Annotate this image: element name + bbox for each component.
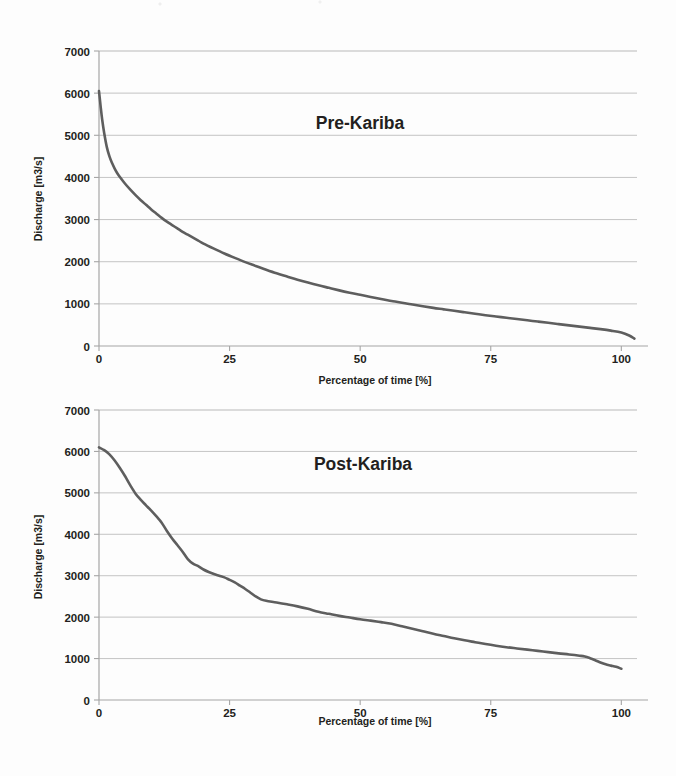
- x-tick-label: 50: [354, 353, 367, 365]
- y-tick-label: 3000: [64, 214, 90, 226]
- x-axis-title-post-kariba: Percentage of time [%]: [318, 715, 431, 727]
- y-tick-label: 1000: [64, 298, 90, 310]
- x-tick-label: 25: [223, 707, 236, 719]
- chart-panel-pre-kariba: 01000200030004000500060007000 0255075100…: [0, 6, 676, 391]
- y-tick-label: 1000: [64, 653, 90, 665]
- y-tick-label: 4000: [64, 172, 90, 184]
- y-tick-label: 2000: [64, 612, 90, 624]
- panel-title-post-kariba: Post-Kariba: [314, 454, 412, 474]
- y-tick-label: 6000: [64, 88, 90, 100]
- y-axis-title-post-kariba: Discharge [m3/s]: [32, 515, 44, 600]
- x-tick-label: 0: [96, 707, 102, 719]
- y-axis-title-pre-kariba: Discharge [m3/s]: [32, 157, 44, 242]
- y-tick-marks-post-kariba: [94, 410, 99, 700]
- y-tick-label: 7000: [64, 46, 90, 58]
- y-tick-label: 6000: [64, 446, 90, 458]
- y-tick-labels-post-kariba: 01000200030004000500060007000: [64, 405, 90, 707]
- x-tick-marks-post-kariba: [99, 700, 621, 705]
- figure-page: 01000200030004000500060007000 0255075100…: [0, 0, 676, 776]
- gridlines-pre-kariba: [99, 51, 637, 304]
- y-tick-label: 4000: [64, 529, 90, 541]
- y-tick-label: 0: [84, 695, 90, 707]
- post-kariba-plot: 01000200030004000500060007000 0255075100…: [0, 392, 676, 776]
- x-tick-label: 75: [484, 353, 497, 365]
- data-series-post-kariba: [99, 447, 621, 668]
- chart-panel-post-kariba: 01000200030004000500060007000 0255075100…: [0, 392, 676, 776]
- x-tick-label: 100: [612, 707, 631, 719]
- panel-title-pre-kariba: Pre-Kariba: [316, 113, 405, 133]
- x-tick-marks-pre-kariba: [99, 346, 621, 351]
- x-axis-title-pre-kariba: Percentage of time [%]: [318, 374, 431, 386]
- pre-kariba-plot: 01000200030004000500060007000 0255075100…: [0, 6, 676, 391]
- x-tick-label: 100: [612, 353, 631, 365]
- y-tick-labels-pre-kariba: 01000200030004000500060007000: [64, 46, 90, 353]
- y-tick-label: 0: [84, 341, 90, 353]
- x-tick-labels-pre-kariba: 0255075100: [96, 353, 631, 365]
- y-tick-label: 2000: [64, 256, 90, 268]
- x-tick-label: 75: [484, 707, 497, 719]
- y-tick-label: 5000: [64, 130, 90, 142]
- x-tick-label: 0: [96, 353, 102, 365]
- x-tick-label: 25: [223, 353, 236, 365]
- y-tick-label: 7000: [64, 405, 90, 417]
- y-tick-label: 5000: [64, 487, 90, 499]
- y-tick-label: 3000: [64, 570, 90, 582]
